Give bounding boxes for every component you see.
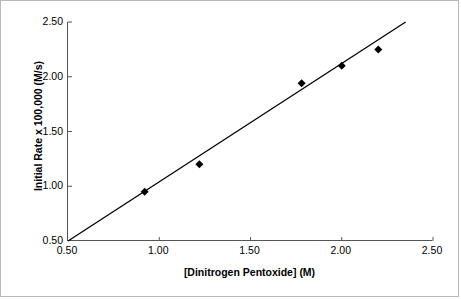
x-axis-tick-label: 1.00 (133, 244, 183, 256)
data-point-marker (374, 45, 382, 53)
data-point-marker (338, 62, 346, 70)
x-axis-tick-label: 0.50 (42, 244, 92, 256)
y-axis-tick-label: 2.50 (27, 16, 63, 27)
x-axis-tick-labels: 0.501.001.502.002.50 (0, 244, 461, 260)
data-point-marker (195, 160, 203, 168)
y-axis-tick-label: 1.50 (27, 126, 63, 137)
plot-area (67, 22, 432, 241)
y-axis-tick-label: 2.00 (27, 71, 63, 82)
trendline (68, 22, 406, 241)
plot-canvas (68, 22, 433, 241)
x-axis-tick-label: 2.50 (407, 244, 457, 256)
data-point-marker (298, 79, 306, 87)
x-axis-title: [Dinitrogen Pentoxide] (M) (67, 266, 432, 278)
chart-figure: Initial Rate vs. Conc. Initial Rate x 10… (0, 0, 461, 299)
y-axis-tick-label: 1.00 (27, 180, 63, 191)
x-axis-tick-label: 1.50 (225, 244, 275, 256)
x-axis-tick-label: 2.00 (316, 244, 366, 256)
